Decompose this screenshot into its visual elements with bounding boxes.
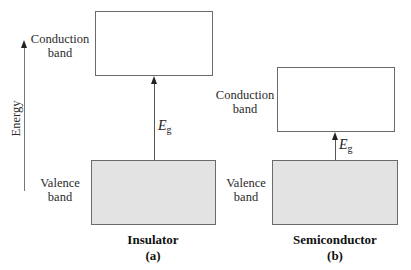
semiconductor-gap-arrowhead-icon	[332, 132, 338, 140]
energy-axis-line	[24, 47, 25, 191]
insulator-gap-arrow-line	[154, 82, 155, 160]
semiconductor-caption: Semiconductor (b)	[280, 232, 390, 264]
semiconductor-gap-label: Eg	[339, 137, 353, 154]
insulator-valence-band-box	[91, 160, 216, 225]
semiconductor-title: Semiconductor	[280, 232, 390, 248]
energy-axis-label: Energy	[9, 99, 24, 139]
insulator-caption: Insulator (a)	[103, 232, 203, 264]
insulator-valence-band-label: Valence band	[36, 176, 84, 204]
insulator-tag: (a)	[103, 248, 203, 264]
energy-axis-arrowhead-icon	[21, 40, 27, 48]
insulator-gap-label: Eg	[158, 118, 172, 135]
insulator-conduction-band-box	[95, 11, 213, 76]
semiconductor-gap-arrow-line	[335, 138, 336, 160]
semiconductor-tag: (b)	[280, 248, 390, 264]
insulator-gap-arrowhead-icon	[151, 76, 157, 84]
insulator-conduction-band-label: Conduction band	[28, 32, 92, 60]
semiconductor-valence-band-label: Valence band	[222, 176, 270, 204]
semiconductor-valence-band-box	[272, 160, 398, 225]
insulator-title: Insulator	[103, 232, 203, 248]
semiconductor-conduction-band-label: Conduction band	[214, 88, 276, 116]
semiconductor-conduction-band-box	[277, 67, 395, 132]
